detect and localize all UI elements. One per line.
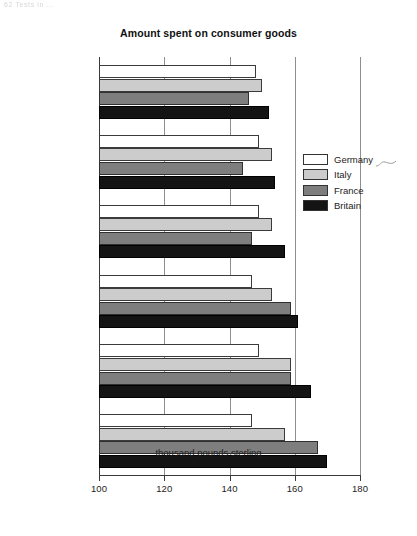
legend-item-france: France — [303, 183, 408, 198]
tick-100 — [99, 475, 100, 481]
bar-italy — [99, 288, 272, 301]
tick-label-160: 160 — [287, 483, 303, 494]
tick-label-120: 120 — [156, 483, 172, 494]
legend-swatch-france — [303, 185, 328, 196]
y-axis-line — [99, 57, 100, 476]
gridline-120 — [164, 57, 165, 476]
pen-mark-squiggle — [375, 160, 397, 168]
bar-germany — [99, 135, 259, 148]
x-axis-label: thousand pounds sterling — [0, 447, 417, 458]
tick-120 — [164, 475, 165, 481]
bar-britain — [99, 176, 275, 189]
legend-item-britain: Britain — [303, 199, 408, 214]
bar-france — [99, 302, 291, 315]
legend-label: Italy — [334, 169, 351, 180]
tick-180 — [360, 475, 361, 481]
bar-france — [99, 232, 252, 245]
bar-france — [99, 162, 243, 175]
bar-germany — [99, 275, 252, 288]
tick-160 — [295, 475, 296, 481]
plot-area: 100120140160180 Personal stereosTennis r… — [99, 57, 360, 476]
legend-label: Germany — [334, 154, 373, 165]
tick-label-100: 100 — [91, 483, 107, 494]
bar-group — [99, 65, 360, 119]
bar-britain — [99, 106, 269, 119]
legend-swatch-germany — [303, 154, 328, 165]
legend-item-italy: Italy — [303, 168, 408, 183]
bar-germany — [99, 65, 256, 78]
tick-140 — [230, 475, 231, 481]
bar-italy — [99, 218, 272, 231]
legend-swatch-italy — [303, 169, 328, 180]
bar-italy — [99, 428, 285, 441]
bar-germany — [99, 205, 259, 218]
bar-germany — [99, 414, 252, 427]
gridline-160 — [295, 57, 296, 476]
bar-group — [99, 414, 360, 468]
legend-label: Britain — [334, 200, 361, 211]
chart-title: Amount spent on consumer goods — [0, 27, 417, 39]
tick-label-180: 180 — [352, 483, 368, 494]
gridline-180 — [360, 57, 361, 476]
bar-group — [99, 275, 360, 329]
gridline-140 — [230, 57, 231, 476]
bar-britain — [99, 315, 298, 328]
bar-group — [99, 344, 360, 398]
bar-italy — [99, 79, 262, 92]
bar-france — [99, 372, 291, 385]
bar-britain — [99, 245, 285, 258]
bar-italy — [99, 148, 272, 161]
bar-france — [99, 92, 249, 105]
bar-italy — [99, 358, 291, 371]
legend-label: France — [334, 185, 364, 196]
scan-artifact-text: 62 Tests in ... — [4, 1, 54, 8]
tick-label-140: 140 — [222, 483, 238, 494]
bar-germany — [99, 344, 259, 357]
legend-swatch-britain — [303, 200, 328, 211]
bar-britain — [99, 385, 311, 398]
